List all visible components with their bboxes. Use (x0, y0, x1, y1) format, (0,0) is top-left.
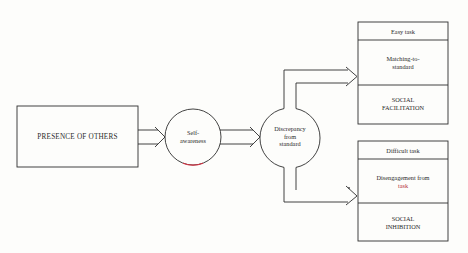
inhibition-line2: INHIBITION (358, 223, 448, 231)
discrepancy-line2: from (258, 133, 322, 141)
facilitation-line2: FACILITATION (358, 104, 448, 112)
accent-arc (183, 163, 203, 165)
matching-line2: standard (358, 63, 448, 71)
inhibition-line1: SOCIAL (358, 215, 448, 223)
difficult-task-outcome: SOCIAL INHIBITION (358, 215, 448, 230)
difficult-task-header: Difficult task (358, 147, 448, 155)
difficult-task-process: Disengagement from task (358, 174, 448, 189)
discrepancy-line3: standard (258, 140, 322, 148)
easy-task-header: Easy task (358, 28, 448, 36)
self-awareness-line1: Self- (165, 129, 221, 137)
discrepancy-line1: Discrepancy (258, 125, 322, 133)
discrepancy-label: Discrepancy from standard (258, 125, 322, 148)
disengagement-line2: task (358, 182, 448, 190)
stray-mark (348, 187, 350, 189)
presence-label: PRESENCE OF OTHERS (17, 133, 138, 141)
self-awareness-line2: awareness (165, 137, 221, 145)
arrow-self-to-discrepancy (220, 127, 260, 147)
arrow-presence-to-self (138, 127, 165, 147)
easy-task-process: Matching-to- standard (358, 55, 448, 70)
easy-task-outcome: SOCIAL FACILITATION (358, 96, 448, 111)
arrow-discrepancy-to-easy (284, 67, 357, 109)
facilitation-line1: SOCIAL (358, 96, 448, 104)
arrow-discrepancy-to-difficult (284, 167, 357, 205)
disengagement-line1: Disengagement from (358, 174, 448, 182)
matching-line1: Matching-to- (358, 55, 448, 63)
self-awareness-label: Self- awareness (165, 129, 221, 144)
